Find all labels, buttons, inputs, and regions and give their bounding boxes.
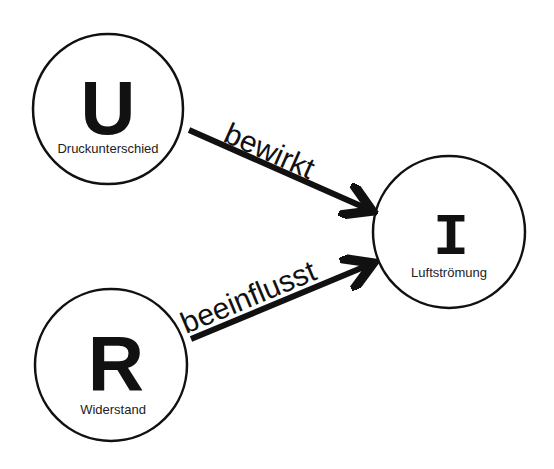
diagram-canvas: U Druckunterschied I Luftströmung R Wide… — [0, 0, 554, 469]
edge-r-to-i: beeinflusst — [176, 254, 371, 340]
node-label-r: Widerstand — [80, 402, 146, 417]
node-symbol-i: I — [433, 204, 469, 272]
node-label-i: Luftströmung — [411, 265, 487, 280]
node-widerstand: R Widerstand — [35, 289, 187, 441]
node-luftstroemung: I Luftströmung — [373, 156, 525, 308]
node-druckunterschied: U Druckunterschied — [33, 34, 183, 184]
edge-label-bewirkt: bewirkt — [220, 116, 321, 185]
node-label-u: Druckunterschied — [57, 141, 158, 156]
node-symbol-r: R — [88, 319, 144, 407]
node-symbol-u: U — [81, 65, 136, 150]
edge-u-to-i: bewirkt — [189, 116, 370, 210]
